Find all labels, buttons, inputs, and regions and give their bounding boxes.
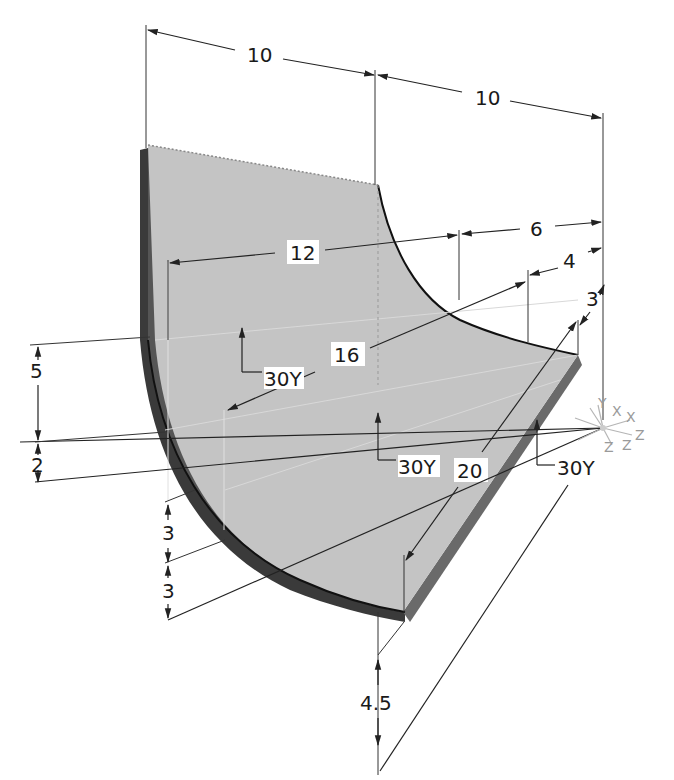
dim-3-lower-a: 3 <box>162 521 175 545</box>
dim-line <box>580 312 590 325</box>
dim-line <box>555 222 601 226</box>
extension-line <box>30 337 150 345</box>
axis-label-x2: X <box>626 409 636 425</box>
dim-6: 6 <box>530 217 543 241</box>
dim-2: 2 <box>31 453 44 477</box>
dim-line <box>462 229 520 234</box>
axis-label-z2: Z <box>622 437 632 453</box>
dim-3-lower-b: 3 <box>162 579 175 603</box>
axis-label-z3: Z <box>604 439 614 455</box>
extension-line <box>378 622 404 655</box>
axis-label-x: X <box>612 403 622 419</box>
dim-line <box>378 75 462 92</box>
dim-top-left-10: 10 <box>247 43 272 67</box>
dim-4: 4 <box>563 249 576 273</box>
cad-drawing: 10 10 12 6 4 3 16 20 5 2 3 <box>0 0 674 780</box>
dim-4-5: 4.5 <box>360 691 392 715</box>
dim-line <box>510 101 601 118</box>
axis-label-y: Y <box>597 395 607 411</box>
angle-callout-center: 30Y <box>398 455 436 479</box>
dim-line <box>148 30 235 50</box>
dim-5: 5 <box>30 359 43 383</box>
part-top-surface <box>148 145 578 612</box>
dim-line <box>283 59 374 75</box>
dim-line <box>588 248 601 252</box>
dim-16: 16 <box>334 343 359 367</box>
dim-3-upper: 3 <box>586 287 599 311</box>
dim-12: 12 <box>290 241 315 265</box>
axis-label-z: Z <box>635 427 645 443</box>
angle-callout-left: 30Y <box>264 367 302 391</box>
dim-top-right-10: 10 <box>475 86 500 110</box>
dim-20: 20 <box>457 459 482 483</box>
dim-line <box>530 268 558 275</box>
angle-callout-right: 30Y <box>557 456 595 480</box>
